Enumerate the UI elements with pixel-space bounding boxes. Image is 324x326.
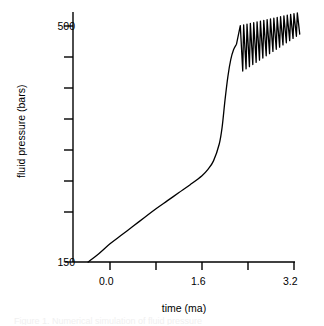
figure-caption-partial: Figure 1. Numerical simulation of fluid … xyxy=(14,317,310,325)
x-tick-label-3-2: 3.2 xyxy=(283,276,298,287)
y-axis-title: fluid pressure (bars) xyxy=(17,84,28,177)
x-tick-label-0-0: 0.0 xyxy=(99,276,114,287)
y-tick-label-500: 500 xyxy=(57,21,75,32)
figure-container: 500 150 0.0 1.6 3.2 fluid pressure (bars… xyxy=(0,0,324,326)
x-tick-label-1-6: 1.6 xyxy=(191,276,206,287)
x-axis-ticks xyxy=(110,262,294,270)
y-axis-title-wrap: fluid pressure (bars) xyxy=(0,0,44,262)
pressure-vs-time-plot xyxy=(0,0,324,326)
x-axis-title-wrap: time (ma) xyxy=(73,298,295,316)
y-tick-label-150: 150 xyxy=(57,257,75,268)
y-axis-ticks xyxy=(64,26,73,262)
x-axis-title: time (ma) xyxy=(162,302,206,314)
fluid-pressure-curve xyxy=(88,13,300,262)
